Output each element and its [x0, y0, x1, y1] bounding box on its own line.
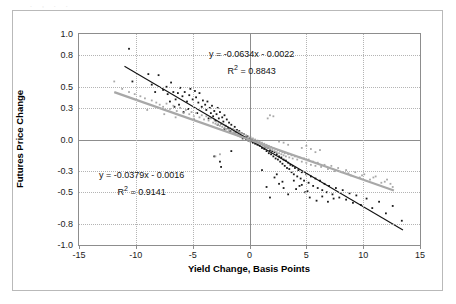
data-point — [226, 119, 228, 121]
y-tick-label: -1.0 — [57, 240, 73, 250]
data-point — [167, 93, 169, 95]
data-point — [182, 95, 184, 97]
data-point — [282, 163, 284, 165]
data-point — [315, 151, 317, 153]
x-tick-label: 0 — [247, 250, 252, 260]
data-point — [219, 111, 221, 113]
data-point — [321, 189, 323, 191]
x-tick-label: -5 — [189, 250, 197, 260]
data-point — [155, 102, 157, 104]
data-point — [292, 158, 294, 160]
x-tick-mark — [250, 245, 251, 249]
data-point — [166, 103, 168, 105]
data-point — [184, 91, 186, 93]
x-tick-mark — [306, 245, 307, 249]
data-point — [213, 110, 215, 112]
data-point — [219, 125, 221, 127]
data-point — [285, 155, 287, 157]
equation-text-2: y = -0.0379x - 0.0016 — [99, 170, 184, 180]
gridline-vertical — [136, 34, 137, 245]
data-point — [222, 121, 224, 123]
data-point — [278, 141, 280, 143]
data-point — [283, 187, 285, 189]
data-point — [219, 161, 221, 163]
data-point — [352, 202, 354, 204]
data-point — [274, 177, 276, 179]
data-point — [272, 155, 274, 157]
x-tick-mark — [79, 245, 80, 249]
data-point — [228, 129, 230, 131]
y-tick-label: 0.3 — [60, 103, 73, 113]
data-point — [241, 132, 243, 134]
data-point — [144, 97, 146, 99]
data-point — [380, 182, 382, 184]
r-squared-1: R2 = 0.8843 — [209, 61, 294, 78]
data-point — [385, 212, 387, 214]
data-point — [267, 118, 269, 120]
data-point — [282, 181, 284, 183]
data-point — [369, 179, 371, 181]
data-point — [296, 176, 298, 178]
data-point — [172, 105, 174, 107]
data-point — [330, 165, 332, 167]
data-point — [189, 88, 191, 90]
data-point — [310, 164, 312, 166]
data-point — [345, 199, 347, 201]
data-point — [228, 122, 230, 124]
data-point — [296, 159, 298, 161]
data-point — [197, 102, 199, 104]
data-point — [217, 124, 219, 126]
data-point — [278, 183, 280, 185]
data-point — [277, 159, 279, 161]
data-point — [243, 133, 245, 135]
x-tick-mark — [136, 245, 137, 249]
data-point — [317, 187, 319, 189]
data-point — [177, 92, 179, 94]
data-point — [295, 188, 297, 190]
data-point — [301, 147, 303, 149]
data-point — [288, 157, 290, 159]
data-point — [151, 84, 153, 86]
data-point — [245, 134, 247, 136]
data-point — [203, 119, 205, 121]
data-point — [375, 176, 377, 178]
data-point — [332, 193, 334, 195]
data-point — [158, 74, 160, 76]
data-point — [283, 142, 285, 144]
top-partial-text: . , . . — [0, 0, 456, 9]
data-point — [207, 101, 209, 103]
data-point — [373, 177, 375, 179]
data-point — [159, 104, 161, 106]
data-point — [201, 114, 203, 116]
data-point — [195, 112, 197, 114]
x-axis-title: Yield Change, Basis Points — [188, 263, 310, 274]
data-point — [188, 94, 190, 96]
x-tick-label: 15 — [415, 250, 425, 260]
data-point — [378, 201, 380, 203]
y-tick-label: 0.5 — [60, 82, 73, 92]
data-point — [183, 112, 185, 114]
data-point — [230, 130, 232, 132]
data-point — [366, 198, 368, 200]
data-point — [230, 124, 232, 126]
data-point — [280, 153, 282, 155]
data-point — [175, 116, 177, 118]
data-point — [269, 197, 271, 199]
data-point — [287, 193, 289, 195]
data-point — [172, 91, 174, 93]
data-point — [270, 153, 272, 155]
x-tick-mark — [193, 245, 194, 249]
data-point — [219, 153, 221, 155]
data-point — [279, 161, 281, 163]
data-point — [276, 151, 278, 153]
data-point — [308, 182, 310, 184]
data-point — [392, 186, 394, 188]
y-axis-title: Futures Price Change — [14, 90, 25, 188]
data-point — [287, 144, 289, 146]
data-point — [208, 118, 210, 120]
data-point — [286, 167, 288, 169]
data-point — [185, 109, 187, 111]
data-point — [208, 120, 210, 122]
data-point — [335, 187, 337, 189]
x-tick-mark — [420, 245, 421, 249]
